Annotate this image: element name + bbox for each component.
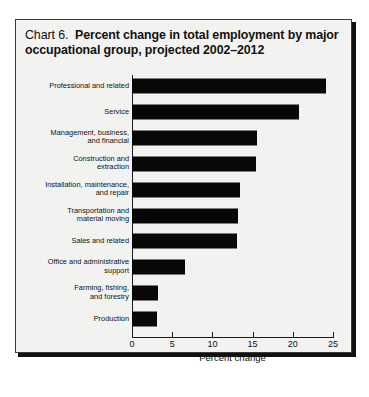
bar-row: Service	[16, 99, 351, 125]
bar-category-label: Sales and related	[24, 237, 129, 246]
chart-title-prefix: Chart 6.	[25, 28, 68, 42]
bar	[132, 208, 238, 223]
x-axis-tick-mark	[293, 332, 294, 338]
bar-row: Transportation and material moving	[16, 203, 351, 229]
bar	[132, 286, 158, 301]
x-axis-tick-label: 15	[248, 339, 258, 349]
x-axis-tick-label: 20	[288, 339, 298, 349]
x-axis-tick-label: 25	[328, 339, 338, 349]
bar-category-label: Production	[24, 315, 129, 324]
bar-category-label: Service	[24, 108, 129, 117]
bar-category-label: Transportation and material moving	[24, 207, 129, 224]
bar	[132, 79, 326, 94]
bar-category-label: Farming, fishing, and forestry	[24, 285, 129, 302]
bar-category-label: Management, business, and financial	[24, 129, 129, 146]
bar-category-label: Installation, maintenance, and repair	[24, 181, 129, 198]
panel-shadow-right	[352, 22, 356, 356]
chart-panel: Chart 6. Percent change in total employm…	[15, 19, 352, 353]
bar	[132, 234, 237, 249]
bar	[132, 130, 257, 145]
bar-row: Farming, fishing, and forestry	[16, 280, 351, 306]
bar-row: Office and administrative support	[16, 254, 351, 280]
bar-row: Construction and extraction	[16, 151, 351, 177]
bar	[132, 156, 256, 171]
bar	[132, 104, 299, 119]
x-axis-tick-label: 0	[129, 339, 134, 349]
x-axis-tick-mark	[212, 332, 213, 338]
x-axis-tick-mark	[132, 332, 133, 338]
x-axis-tick-label: 10	[207, 339, 217, 349]
x-axis-tick-mark	[333, 332, 334, 338]
plot-area: Professional and relatedServiceManagemen…	[16, 70, 351, 352]
bar	[132, 182, 240, 197]
bar-row: Installation, maintenance, and repair	[16, 177, 351, 203]
bar-row: Management, business, and financial	[16, 125, 351, 151]
x-axis-title: Percent change	[132, 352, 333, 363]
x-axis-tick-label: 5	[170, 339, 175, 349]
bar-row: Production	[16, 306, 351, 332]
x-axis-line	[132, 337, 333, 338]
bar	[132, 312, 157, 327]
x-axis-tick-mark	[253, 332, 254, 338]
x-axis-tick-mark	[172, 332, 173, 338]
bar	[132, 260, 185, 275]
chart-title: Chart 6. Percent change in total employm…	[25, 28, 345, 57]
bar-category-label: Construction and extraction	[24, 155, 129, 172]
bar-row: Professional and related	[16, 73, 351, 99]
bar-category-label: Office and administrative support	[24, 259, 129, 276]
bar-row: Sales and related	[16, 228, 351, 254]
bar-category-label: Professional and related	[24, 82, 129, 91]
